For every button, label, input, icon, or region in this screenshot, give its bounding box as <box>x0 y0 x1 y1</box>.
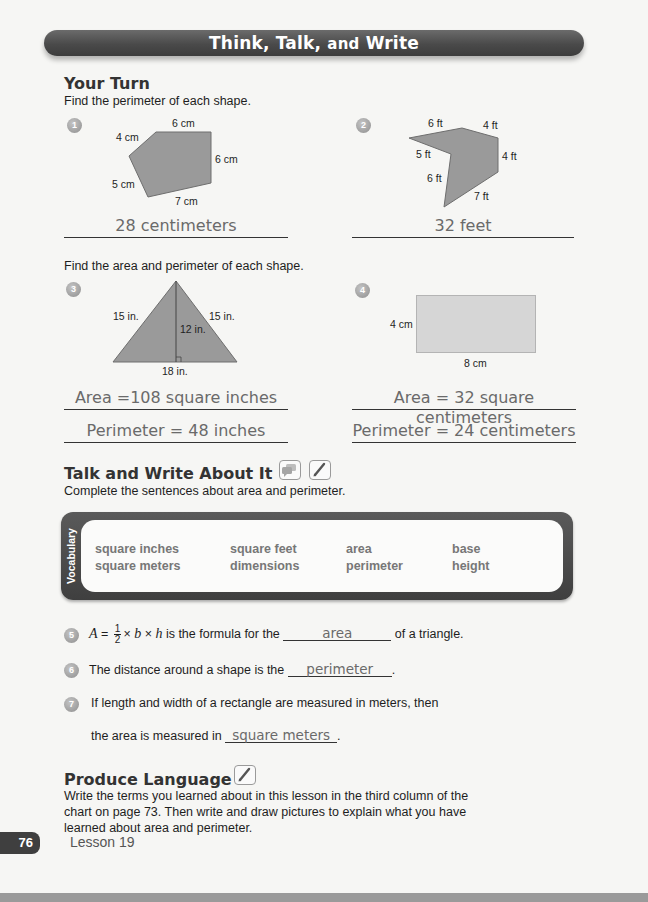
triangle-figure <box>60 255 310 375</box>
sentence-5-badge: 5 <box>64 628 79 643</box>
your-turn-heading: Your Turn <box>64 74 150 93</box>
sentence-7-text: the area is measured in <box>91 729 225 743</box>
p3-area-answer: Area =108 square inches <box>64 388 288 410</box>
irregular-hexagon-figure <box>350 110 590 210</box>
sentence-6-blank: perimeter <box>288 662 392 677</box>
produce-language-line2: chart on page 73. Then write and draw pi… <box>64 805 466 819</box>
bottom-border <box>0 893 648 902</box>
sentence-7-blank: square meters <box>225 728 337 743</box>
sentence-7-badge: 7 <box>64 697 79 712</box>
p4-label-width: 4 cm <box>390 318 413 330</box>
sentence-7-line1: If length and width of a rectangle are m… <box>91 696 438 710</box>
lesson-label: Lesson 19 <box>70 834 135 850</box>
sentence-6-badge: 6 <box>64 663 79 678</box>
vocab-word: square feet <box>230 542 297 556</box>
p1-label-top: 6 cm <box>172 117 195 129</box>
pencil-icon <box>309 460 331 480</box>
perimeter-instruction: Find the perimeter of each shape. <box>64 94 251 108</box>
banner-title-part2: and <box>327 35 359 53</box>
p2-label-right: 4 ft <box>502 150 517 162</box>
p3-label-height: 12 in. <box>180 323 206 335</box>
vocabulary-tab: Vocabulary <box>63 516 79 596</box>
p4-perimeter-answer: Perimeter = 24 centimeters <box>352 421 576 443</box>
page-number: 76 <box>0 832 40 854</box>
vocab-word: perimeter <box>346 559 403 573</box>
sentence-5-text: is the formula for the <box>162 627 283 641</box>
sentence-5-blank: area <box>283 626 391 641</box>
p3-label-right-side: 15 in. <box>209 310 235 322</box>
p1-label-upper-left: 4 cm <box>116 131 139 143</box>
sentence-7-end: . <box>337 729 340 743</box>
speech-bubbles-icon <box>279 460 301 480</box>
vocabulary-box: Vocabulary square inches square feet are… <box>61 512 573 600</box>
banner-title-part3: Write <box>366 33 419 53</box>
vocabulary-list <box>81 520 563 592</box>
p3-perimeter-answer: Perimeter = 48 inches <box>64 421 288 443</box>
fraction-one-half: 12 <box>114 624 122 645</box>
p1-label-right: 6 cm <box>215 153 238 165</box>
p2-label-bottom: 7 ft <box>474 190 489 202</box>
sentence-5-end: of a triangle. <box>391 627 463 641</box>
frac-denominator: 2 <box>114 635 122 645</box>
produce-language-heading: Produce Language <box>64 770 232 789</box>
sentence-6-end: . <box>392 663 395 677</box>
talk-write-instruction: Complete the sentences about area and pe… <box>64 484 345 498</box>
workbook-page: Think, Talk, and Write Your Turn Find th… <box>0 0 648 902</box>
sentence-6: The distance around a shape is the perim… <box>89 662 395 677</box>
banner-title: Think, Talk, and Write <box>44 33 584 53</box>
p4-area-answer: Area = 32 square centimeters <box>352 388 576 410</box>
p1-label-bottom: 7 cm <box>175 195 198 207</box>
vocab-word: base <box>452 542 481 556</box>
p3-label-base: 18 in. <box>162 365 188 377</box>
vocab-word: height <box>452 559 490 573</box>
vocabulary-tab-label: Vocabulary <box>65 528 77 584</box>
vocab-word: dimensions <box>230 559 299 573</box>
p1-label-lower-left: 5 cm <box>112 178 135 190</box>
sentence-5: A = 12× b × h is the formula for the are… <box>89 624 464 645</box>
produce-language-line3: learned about area and perimeter. <box>64 821 252 835</box>
vocab-word: square inches <box>95 542 179 556</box>
p1-answer: 28 centimeters <box>64 216 288 238</box>
sentence-6-text: The distance around a shape is the <box>89 663 288 677</box>
rectangle-figure <box>416 295 536 353</box>
vocab-word: square meters <box>95 559 180 573</box>
p4-label-length: 8 cm <box>464 357 487 369</box>
p2-label-inner-upper: 5 ft <box>416 148 431 160</box>
banner-title-part1: Think, Talk, <box>209 33 321 53</box>
p2-label-top-left: 6 ft <box>428 117 443 129</box>
talk-write-heading: Talk and Write About It <box>64 464 272 483</box>
p2-label-inner-lower: 6 ft <box>427 172 442 184</box>
formula-a: A <box>89 626 98 641</box>
p2-answer: 32 feet <box>352 216 574 238</box>
produce-language-line1: Write the terms you learned about in thi… <box>64 789 468 803</box>
pencil-icon <box>234 765 256 785</box>
p2-label-top-right: 4 ft <box>483 119 498 131</box>
section-banner: Think, Talk, and Write <box>44 30 584 56</box>
formula-b: b <box>134 626 141 641</box>
problem-4-badge: 4 <box>355 283 370 298</box>
sentence-7-line2: the area is measured in square meters. <box>91 728 341 743</box>
p3-label-left-side: 15 in. <box>113 310 139 322</box>
vocab-word: area <box>346 542 372 556</box>
